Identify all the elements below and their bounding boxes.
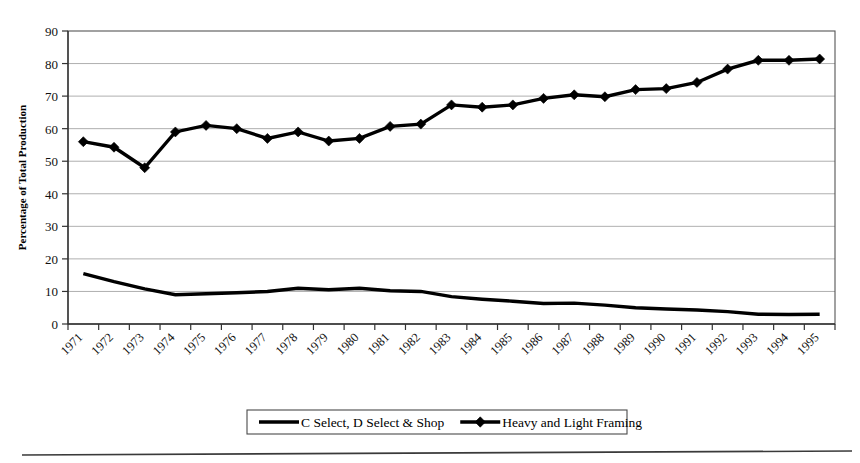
y-axis-ticks bbox=[62, 31, 68, 324]
chart-figure: 0102030405060708090 19711972197319741975… bbox=[0, 0, 860, 463]
y-tick-label-80: 80 bbox=[45, 57, 58, 72]
data-point-marker bbox=[631, 85, 641, 95]
y-tick-label-0: 0 bbox=[52, 317, 59, 332]
x-tick-label-1971: 1971 bbox=[58, 330, 86, 358]
bottom-rule bbox=[22, 451, 852, 455]
line-chart: 0102030405060708090 19711972197319741975… bbox=[0, 0, 860, 463]
x-tick-label-1977: 1977 bbox=[242, 330, 270, 358]
data-point-marker bbox=[723, 64, 733, 74]
x-axis-tick-labels: 1971197219731974197519761977197819791980… bbox=[58, 330, 822, 358]
data-point-marker bbox=[354, 133, 364, 143]
plot-area-border bbox=[68, 31, 835, 324]
x-tick-label-1990: 1990 bbox=[641, 330, 669, 358]
data-point-marker bbox=[385, 121, 395, 131]
x-axis-ticks bbox=[68, 324, 835, 330]
data-series-group bbox=[78, 54, 824, 315]
x-tick-label-1988: 1988 bbox=[579, 330, 607, 358]
data-point-marker bbox=[600, 92, 610, 102]
plot-border-rect bbox=[68, 31, 835, 324]
data-point-marker bbox=[539, 93, 549, 103]
x-tick-label-1976: 1976 bbox=[211, 330, 239, 358]
data-point-marker bbox=[262, 133, 272, 143]
data-point-marker bbox=[569, 90, 579, 100]
y-tick-label-20: 20 bbox=[45, 252, 58, 267]
data-point-marker bbox=[815, 54, 825, 64]
x-tick-label-1983: 1983 bbox=[426, 330, 454, 358]
x-tick-label-1973: 1973 bbox=[119, 330, 147, 358]
x-tick-label-1982: 1982 bbox=[395, 330, 423, 358]
data-point-marker bbox=[232, 124, 242, 134]
data-point-marker bbox=[692, 77, 702, 87]
x-tick-label-1995: 1995 bbox=[794, 330, 822, 358]
legend-label-2: Heavy and Light Framing bbox=[502, 415, 642, 430]
data-point-marker bbox=[661, 84, 671, 94]
gridlines-group bbox=[68, 64, 835, 292]
x-tick-label-1991: 1991 bbox=[671, 330, 699, 358]
y-axis-tick-labels: 0102030405060708090 bbox=[45, 24, 58, 332]
x-tick-label-1984: 1984 bbox=[457, 330, 485, 358]
y-tick-label-50: 50 bbox=[45, 154, 58, 169]
y-tick-label-30: 30 bbox=[45, 219, 58, 234]
x-tick-label-1979: 1979 bbox=[303, 330, 331, 358]
x-tick-label-1975: 1975 bbox=[181, 330, 209, 358]
x-tick-label-1981: 1981 bbox=[365, 330, 393, 358]
data-point-marker bbox=[78, 137, 88, 147]
legend-label-1: C Select, D Select & Shop bbox=[301, 415, 444, 430]
x-tick-label-1978: 1978 bbox=[273, 330, 301, 358]
data-point-marker bbox=[508, 100, 518, 110]
x-tick-label-1992: 1992 bbox=[702, 330, 730, 358]
x-tick-label-1985: 1985 bbox=[487, 330, 515, 358]
y-tick-label-10: 10 bbox=[45, 284, 58, 299]
series-line-1 bbox=[83, 274, 819, 315]
x-tick-label-1994: 1994 bbox=[764, 330, 792, 358]
x-tick-label-1993: 1993 bbox=[733, 330, 761, 358]
y-tick-label-60: 60 bbox=[45, 122, 58, 137]
data-point-marker bbox=[324, 136, 334, 146]
y-tick-label-90: 90 bbox=[45, 24, 58, 39]
x-tick-label-1972: 1972 bbox=[89, 330, 117, 358]
x-tick-label-1974: 1974 bbox=[150, 330, 178, 358]
data-point-marker bbox=[477, 102, 487, 112]
chart-legend: C Select, D Select & ShopHeavy and Light… bbox=[247, 410, 642, 434]
x-tick-label-1989: 1989 bbox=[610, 330, 638, 358]
series-line-2 bbox=[83, 59, 819, 168]
x-tick-label-1980: 1980 bbox=[334, 330, 362, 358]
y-tick-label-70: 70 bbox=[45, 89, 58, 104]
x-tick-label-1987: 1987 bbox=[549, 330, 577, 358]
y-axis-title: Percentage of Total Production bbox=[16, 105, 28, 250]
x-tick-label-1986: 1986 bbox=[518, 330, 546, 358]
y-tick-label-40: 40 bbox=[45, 187, 58, 202]
y-axis-title-text: Percentage of Total Production bbox=[16, 105, 28, 250]
